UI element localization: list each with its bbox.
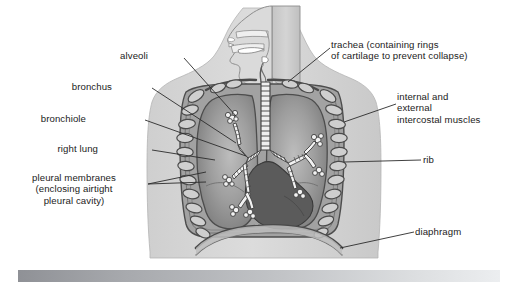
label-right-lung: right lung [8,143,98,154]
bottom-caption-bar [18,270,500,282]
label-diaphragm: diaphragm [415,226,495,237]
label-bronchus: bronchus [24,81,112,92]
label-alveoli: alveoli [60,50,148,61]
label-pleural-membranes: pleural membranes (enclosing airtight pl… [4,172,144,206]
label-bronchiole: bronchiole [0,113,86,124]
label-trachea: trachea (containing rings of cartilage t… [331,39,511,62]
label-intercostal-muscles: internal and external intercostal muscle… [397,91,513,125]
label-rib: rib [423,154,483,165]
